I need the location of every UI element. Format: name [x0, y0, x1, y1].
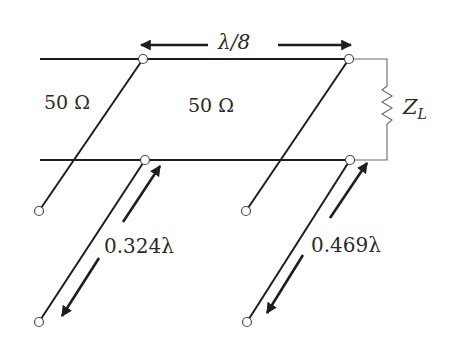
stub-1-length-arrow-down: [62, 258, 99, 316]
label-impedance-left: 50 Ω: [44, 91, 90, 113]
label-stub-spacing: λ/8: [217, 30, 250, 54]
double-stub-diagram: 50 Ω 50 Ω λ/8 ZL 0.324λ 0.469λ: [0, 0, 457, 337]
label-stub-1-length: 0.324λ: [104, 234, 174, 258]
stub-1-length-arrow-up: [123, 166, 160, 222]
label-impedance-main: 50 Ω: [188, 94, 234, 116]
load-resistor: [352, 59, 392, 160]
load-symbol: Z: [402, 95, 418, 119]
label-load: ZL: [402, 95, 427, 122]
stub-2-conductor-a: [246, 59, 349, 211]
label-stub-2-length: 0.469λ: [311, 233, 381, 257]
load-subscript: L: [417, 106, 427, 122]
stub-2-length-arrow-up: [330, 163, 367, 218]
